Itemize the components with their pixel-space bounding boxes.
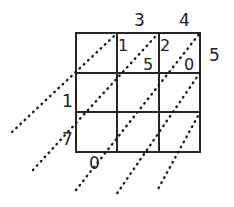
left-label-row-2: 1 bbox=[62, 93, 73, 110]
grid-and-diagonals bbox=[0, 0, 234, 207]
cell-digit-r1c2-upper: 1 bbox=[118, 38, 128, 54]
left-label-row-3: 7 bbox=[62, 131, 73, 148]
cell-digit-r1c2-lower: 5 bbox=[143, 57, 153, 73]
lattice-multiplication-figure: 3 4 5 1 7 0 1 5 2 0 bbox=[0, 0, 234, 207]
bottom-label-0: 0 bbox=[89, 155, 100, 172]
cell-digit-r1c3-lower: 0 bbox=[184, 57, 194, 73]
cell-digit-r1c3-upper: 2 bbox=[160, 38, 170, 54]
column-header-3: 4 bbox=[179, 12, 190, 29]
column-header-2: 3 bbox=[134, 12, 145, 29]
right-label-row-1: 5 bbox=[209, 47, 220, 64]
grid-lines bbox=[76, 33, 200, 152]
